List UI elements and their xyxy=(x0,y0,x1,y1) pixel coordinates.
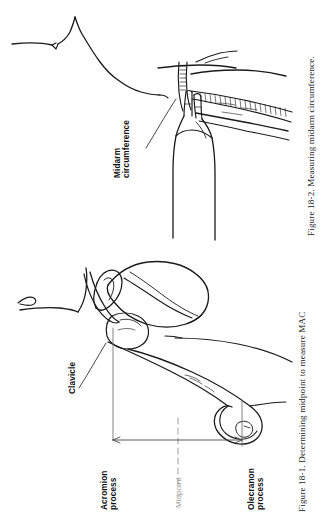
label-olecranon-process-line2: process xyxy=(256,468,265,510)
figure-18-2-caption: Figure 18-2. Measuring midarm circumfere… xyxy=(306,56,316,236)
label-midpoint: Midpoint xyxy=(174,477,183,508)
label-midpoint-line1: Midpoint xyxy=(174,477,183,508)
label-midarm-circumference-line2: circumference xyxy=(122,120,131,178)
figure-18-2: Midarm circumference xyxy=(0,0,300,250)
label-olecranon-process: Olecranon process xyxy=(247,468,266,510)
figure-18-1-caption: Figure 18-1. Determining midpoint to mea… xyxy=(297,312,307,512)
label-clavicle: Clavicle xyxy=(68,362,77,394)
book-page: Midarm circumference Figure 18-2. Measur… xyxy=(0,0,336,516)
label-clavicle-line1: Clavicle xyxy=(68,362,77,394)
label-acromion-process-line2: process xyxy=(109,470,118,510)
label-acromion-process: Acromion process xyxy=(100,470,119,510)
figure-18-2-illustration xyxy=(0,0,300,250)
label-midarm-circumference: Midarm circumference xyxy=(113,120,132,178)
